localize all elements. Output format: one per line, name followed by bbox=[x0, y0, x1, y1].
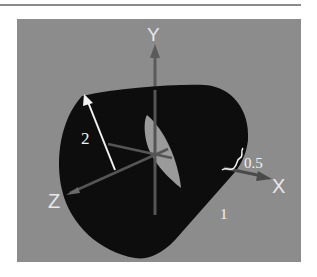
length-label: 1 bbox=[220, 206, 228, 222]
y-axis-label: Y bbox=[147, 24, 160, 45]
x-axis-label: X bbox=[272, 175, 285, 197]
y-axis-arrowhead-icon bbox=[150, 44, 160, 58]
cone-diagram: Y X Z 2 0.5 1 bbox=[0, 0, 317, 277]
small-radius-label: 0.5 bbox=[244, 155, 263, 171]
large-radius-label: 2 bbox=[81, 129, 90, 148]
x-axis-arrowhead-icon bbox=[256, 171, 272, 181]
z-axis-label: Z bbox=[48, 190, 60, 212]
y-axis bbox=[150, 44, 160, 90]
